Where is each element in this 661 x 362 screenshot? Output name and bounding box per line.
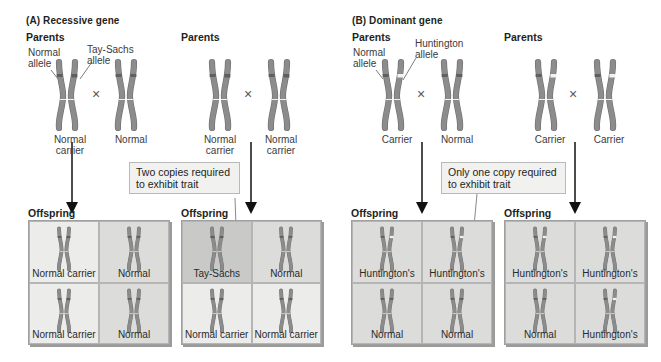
parent-chromosomes (590, 58, 620, 136)
allele-band-light (539, 99, 545, 100)
allele-band-light (386, 99, 392, 100)
allele-band-light (613, 236, 617, 238)
parent-chromosomes (531, 58, 561, 136)
offspring-cell: Normal (505, 283, 575, 345)
allele-band-light (453, 251, 457, 252)
allele-band-light (606, 99, 612, 100)
allele-band-light (460, 236, 464, 238)
allele-band-light (543, 236, 547, 238)
allele-band-light (611, 251, 615, 252)
cross-symbol: × (569, 86, 577, 102)
allele-band-dark (604, 297, 608, 299)
allele-band-light (611, 313, 615, 314)
allele-band-dark (451, 297, 455, 299)
allele-band-dark (381, 236, 385, 238)
allele-band-light (609, 74, 615, 78)
allele-band-light (383, 251, 387, 252)
allele-band-dark (381, 297, 385, 299)
offspring-cell: Huntington's (422, 221, 492, 283)
allele-band-light (606, 251, 610, 252)
offspring-chromosomes (601, 288, 620, 334)
parent-chromosomes (378, 58, 408, 136)
allele-band-light (598, 99, 604, 100)
allele-band-light (550, 74, 556, 78)
offspring-cell: Huntington's (352, 221, 422, 283)
allele-band-light (397, 74, 403, 78)
allele-band-light (445, 99, 451, 100)
offspring-cell: Huntington's (575, 221, 645, 283)
allele-band-light (390, 236, 394, 238)
parent2-label: Normal (432, 134, 482, 145)
offspring-label: Huntington's (353, 268, 421, 279)
allele-band-light (458, 251, 462, 252)
offspring-chromosomes (601, 226, 620, 272)
allele-band-light (541, 251, 545, 252)
parent1-label: Carrier (372, 134, 422, 145)
offspring-label: Normal (506, 329, 574, 340)
offspring-grid: Huntington'sHuntington'sNormalNormal (351, 220, 493, 345)
note-one-copy: Only one copy required to exhibit trait (441, 162, 566, 194)
allele-band-light (388, 313, 392, 314)
allele-band-dark (460, 297, 464, 299)
allele-band-dark (543, 297, 547, 299)
offspring-header: Offspring (351, 207, 398, 219)
allele-band-light (536, 313, 540, 314)
allele-band-dark (451, 236, 455, 238)
allele-band-dark (456, 74, 462, 77)
offspring-chromosomes (448, 226, 467, 272)
offspring-chromosomes (448, 288, 467, 334)
offspring-chromosomes (378, 288, 397, 334)
allele-band-light (536, 251, 540, 252)
offspring-label: Huntington's (576, 329, 644, 340)
offspring-cell: Huntington's (505, 221, 575, 283)
parent2-label: Carrier (584, 134, 634, 145)
allele-band-light (458, 313, 462, 314)
allele-band-light (453, 99, 459, 100)
offspring-cell: Normal (352, 283, 422, 345)
allele-band-dark (383, 74, 389, 77)
allele-band-dark (604, 236, 608, 238)
allele-band-dark (595, 74, 601, 77)
allele-band-light (541, 313, 545, 314)
offspring-label: Huntington's (506, 268, 574, 279)
offspring-label: Huntington's (423, 268, 491, 279)
offspring-cell: Huntington's (575, 283, 645, 345)
offspring-label: Normal (353, 329, 421, 340)
offspring-header: Offspring (504, 207, 551, 219)
parents-header: Parents (504, 31, 543, 43)
allele-band-light (613, 297, 617, 299)
allele-band-light (394, 99, 400, 100)
cross-symbol: × (417, 86, 425, 102)
offspring-grid: Huntington'sHuntington'sNormalHuntington… (504, 220, 646, 345)
offspring-chromosomes (378, 226, 397, 272)
offspring-chromosomes (531, 288, 550, 334)
offspring-chromosomes (531, 226, 550, 272)
parent1-label: Carrier (525, 134, 575, 145)
allele-band-dark (442, 74, 448, 77)
allele-band-light (388, 251, 392, 252)
allele-band-light (606, 313, 610, 314)
allele-band-dark (534, 236, 538, 238)
allele-band-light (547, 99, 553, 100)
allele-band-dark (534, 297, 538, 299)
offspring-label: Huntington's (576, 268, 644, 279)
allele-band-light (453, 313, 457, 314)
allele-band-light (383, 313, 387, 314)
parent-chromosomes (437, 58, 467, 136)
allele-band-dark (390, 297, 394, 299)
allele-band-dark (536, 74, 542, 77)
offspring-label: Normal (423, 329, 491, 340)
offspring-cell: Normal (422, 283, 492, 345)
